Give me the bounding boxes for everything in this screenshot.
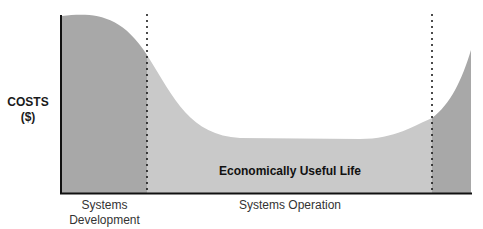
y-axis-label-line1: COSTS	[4, 95, 52, 110]
end-of-life-region	[432, 0, 472, 193]
y-axis-label: COSTS ($)	[4, 95, 52, 125]
y-axis-label-line2: ($)	[4, 110, 52, 125]
phase1-line2: Development	[62, 213, 147, 228]
phase-label-development: Systems Development	[62, 198, 147, 228]
cost-curve-diagram	[0, 0, 483, 229]
useful-life-annotation: Economically Useful Life	[200, 164, 380, 178]
phase1-line1: Systems	[62, 198, 147, 213]
development-region	[62, 0, 147, 193]
phase-label-operation: Systems Operation	[200, 198, 380, 213]
